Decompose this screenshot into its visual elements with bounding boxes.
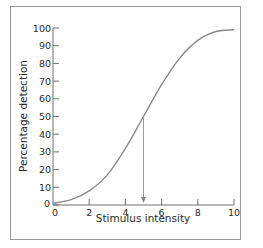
y-tick-label: 90 (39, 40, 51, 51)
y-tick-label: 70 (39, 76, 51, 87)
y-tick-label: 60 (39, 93, 51, 104)
y-tick-label: 0 (44, 198, 50, 209)
y-tick-label: 50 (39, 111, 51, 122)
threshold-arrow (141, 117, 146, 204)
y-tick-label: 100 (33, 23, 51, 34)
y-axis-ticks: 0102030405060708090100 (33, 23, 59, 210)
y-axis-title: Percentage detection (17, 60, 29, 172)
x-tick-label: 8 (195, 207, 201, 218)
x-tick-label: 2 (86, 207, 92, 218)
y-tick-label: 80 (39, 58, 51, 69)
x-tick-label: 0 (52, 207, 58, 218)
y-tick-label: 30 (39, 146, 51, 157)
y-tick-label: 20 (39, 164, 51, 175)
x-tick-label: 10 (228, 207, 240, 218)
y-tick-label: 10 (39, 182, 51, 193)
x-axis-title: Stimulus intensity (96, 212, 191, 224)
y-tick-label: 40 (39, 129, 51, 140)
psychometric-chart: 0102030405060708090100 0246810 Stimulus … (0, 0, 263, 248)
